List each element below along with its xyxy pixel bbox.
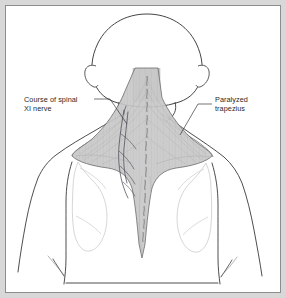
figure-frame: Course of spinalXI nerve Paralyzedtrapez… (5, 5, 281, 293)
anatomical-illustration-canvas (6, 6, 280, 292)
label-trapezius-line1: Paralyzed (215, 95, 248, 104)
left-ear-icon (85, 65, 98, 87)
label-trapezius-line2: trapezius (215, 104, 245, 113)
trapezius-muscle (72, 68, 212, 258)
label-nerve-line2: XI nerve (24, 104, 52, 113)
label-course-of-spinal-xi-nerve: Course of spinalXI nerve (24, 95, 78, 113)
leader-line-trapezius (180, 104, 212, 135)
label-nerve-line1: Course of spinal (24, 95, 78, 104)
right-scapula (177, 163, 212, 252)
left-scapula (72, 162, 107, 251)
figure-root: Course of spinalXI nerve Paralyzedtrapez… (0, 0, 286, 298)
right-ear-icon (196, 65, 209, 87)
label-paralyzed-trapezius: Paralyzedtrapezius (215, 95, 248, 113)
